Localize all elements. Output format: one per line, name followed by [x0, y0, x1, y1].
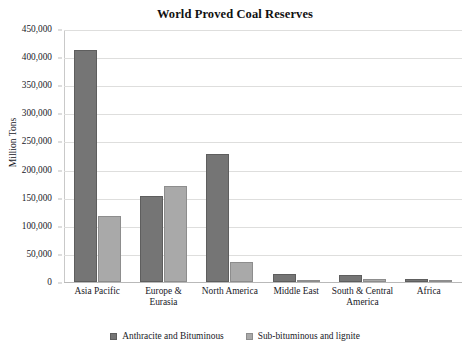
y-axis-tick-label: 250,000: [22, 138, 52, 147]
x-axis-tick-label: Africa: [396, 286, 462, 297]
legend-swatch-icon: [110, 333, 117, 340]
y-axis-tick-mark: [58, 30, 62, 31]
x-axis-tick-label: North America: [197, 286, 263, 297]
bar[interactable]: [363, 279, 386, 282]
bar-group: [273, 30, 320, 282]
gridline: [64, 30, 462, 31]
y-axis-tick-label: 400,000: [22, 53, 52, 62]
x-axis-tick-label: Europe & Eurasia: [130, 286, 196, 309]
gridline: [64, 86, 462, 87]
bar[interactable]: [98, 216, 121, 282]
y-axis-tick-mark: [58, 114, 62, 115]
bar-group: [405, 30, 452, 282]
bar[interactable]: [140, 196, 163, 282]
chart-title: World Proved Coal Reserves: [0, 7, 470, 22]
bar-group: [140, 30, 187, 282]
gridline: [64, 171, 462, 172]
y-axis-tick-mark: [58, 58, 62, 59]
bar[interactable]: [206, 154, 229, 282]
legend-label: Anthracite and Bituminous: [122, 331, 224, 341]
y-axis-line: [64, 30, 65, 283]
bar-group: [74, 30, 121, 282]
y-axis-tick-mark: [58, 142, 62, 143]
y-axis-tick-labels: 050,000100,000150,000200,000250,000300,0…: [0, 30, 58, 283]
bar-group: [206, 30, 253, 282]
bar[interactable]: [297, 280, 320, 282]
y-axis-tick-label: 50,000: [26, 250, 52, 259]
gridline: [64, 142, 462, 143]
x-axis-tick-labels: Asia PacificEurope & EurasiaNorth Americ…: [64, 286, 462, 332]
legend-label: Sub-bituminous and lignite: [258, 331, 360, 341]
bar[interactable]: [339, 275, 362, 282]
bar[interactable]: [74, 50, 97, 282]
bar-group: [339, 30, 386, 282]
bar[interactable]: [273, 274, 296, 282]
y-axis-tick-label: 150,000: [22, 194, 52, 203]
chart-container: World Proved Coal Reserves Million Tons …: [0, 0, 470, 353]
y-axis-tick-mark: [58, 226, 62, 227]
x-axis-tick-label: Asia Pacific: [64, 286, 130, 297]
plot-area: [64, 30, 462, 283]
legend-item[interactable]: Sub-bituminous and lignite: [246, 331, 360, 341]
y-axis-tick-label: 200,000: [22, 166, 52, 175]
x-axis-line: [64, 282, 462, 283]
bar[interactable]: [429, 280, 452, 282]
gridline: [64, 255, 462, 256]
y-axis-tick-label: 350,000: [22, 82, 52, 91]
chart-legend: Anthracite and BituminousSub-bituminous …: [0, 331, 470, 341]
x-axis-tick-label: Middle East: [263, 286, 329, 297]
y-axis-tick-mark: [58, 254, 62, 255]
bar[interactable]: [405, 279, 428, 282]
legend-swatch-icon: [246, 333, 253, 340]
y-axis-tick-mark: [58, 283, 62, 284]
gridline: [64, 114, 462, 115]
y-axis-tick-label: 300,000: [22, 110, 52, 119]
y-axis-tick-mark: [58, 198, 62, 199]
y-axis-tick-mark: [58, 170, 62, 171]
gridline: [64, 58, 462, 59]
x-axis-tick-label: South & Central America: [329, 286, 395, 309]
y-axis-tick-mark: [58, 86, 62, 87]
y-axis-tick-label: 100,000: [22, 222, 52, 231]
bar[interactable]: [230, 262, 253, 282]
legend-item[interactable]: Anthracite and Bituminous: [110, 331, 224, 341]
y-axis-tick-label: 0: [47, 278, 52, 287]
y-axis-tick-label: 450,000: [22, 25, 52, 34]
gridline: [64, 227, 462, 228]
bar[interactable]: [164, 186, 187, 282]
gridline: [64, 199, 462, 200]
